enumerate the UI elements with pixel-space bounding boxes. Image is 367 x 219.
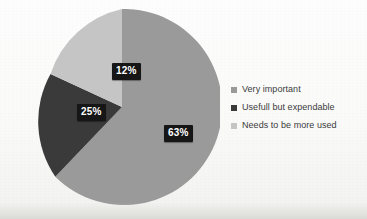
- legend-swatch-icon-very-important: [231, 87, 237, 93]
- legend-swatch-icon-needs-to-be-more-used: [231, 123, 237, 129]
- pie-chart-plot-area: 12% 25% 63%: [24, 9, 220, 205]
- legend-item-needs-to-be-more-used[interactable]: Needs to be more used: [231, 116, 365, 134]
- legend-item-very-important[interactable]: Very important: [231, 80, 365, 98]
- legend-label-very-important: Very important: [242, 85, 301, 94]
- pie-svg: [24, 9, 220, 205]
- legend-label-needs-to-be-more-used: Needs to be more used: [242, 121, 337, 130]
- page-bottom-shadow: [0, 203, 367, 219]
- legend-label-usefull-but-expendable: Usefull but expendable: [242, 103, 335, 112]
- data-label-very-important: 63%: [164, 125, 193, 142]
- legend-item-usefull-but-expendable[interactable]: Usefull but expendable: [231, 98, 365, 116]
- data-label-needs-to-be-more-used: 12%: [112, 63, 141, 80]
- pie-chart-figure: 12% 25% 63% Very important Usefull but e…: [0, 0, 367, 219]
- data-label-usefull-but-expendable: 25%: [77, 104, 106, 121]
- legend-swatch-icon-usefull-but-expendable: [231, 105, 237, 111]
- chart-legend: Very important Usefull but expendable Ne…: [231, 80, 365, 134]
